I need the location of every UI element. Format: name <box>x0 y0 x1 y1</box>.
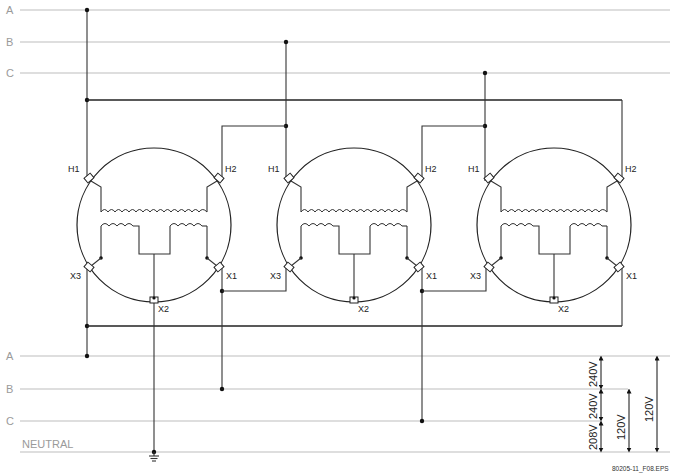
transformer-t1: H1 H2 X3 X1 X2 <box>68 148 237 314</box>
label-h1: H1 <box>68 164 80 174</box>
label-x3: X3 <box>270 271 281 281</box>
voltage-b-n: 120V <box>615 414 627 440</box>
primary-wiring <box>85 8 622 181</box>
label-h2: H2 <box>625 164 637 174</box>
primary-label-a: A <box>6 4 14 16</box>
label-h1: H1 <box>468 164 480 174</box>
primary-label-c: C <box>6 67 14 79</box>
file-label: 80205-11_F08.EPS <box>612 465 669 473</box>
label-x2: X2 <box>158 304 169 314</box>
label-x3: X3 <box>70 271 81 281</box>
secondary-label-a: A <box>6 350 14 362</box>
label-x2: X2 <box>558 304 569 314</box>
secondary-lines: A B C NEUTRAL <box>6 350 670 452</box>
label-h2: H2 <box>225 164 237 174</box>
ground-icon <box>149 452 159 461</box>
wiring-diagram: A B C A B C NEUTRAL <box>0 0 675 476</box>
transformer-t3: H1 H2 X3 X1 X2 <box>468 148 637 314</box>
label-x1: X1 <box>226 271 237 281</box>
label-h2: H2 <box>425 164 437 174</box>
primary-label-b: B <box>6 36 13 48</box>
secondary-label-neutral: NEUTRAL <box>22 438 73 450</box>
label-h1: H1 <box>268 164 280 174</box>
secondary-wiring <box>85 266 622 461</box>
voltage-b-c: 240V <box>587 393 599 419</box>
voltage-indicators: 240V 240V 208V 120V 120V <box>587 358 657 450</box>
label-x1: X1 <box>626 271 637 281</box>
label-x1: X1 <box>426 271 437 281</box>
primary-lines: A B C <box>6 4 670 79</box>
transformer-t2: H1 H2 X3 X1 X2 <box>268 148 437 314</box>
label-x3: X3 <box>470 271 481 281</box>
voltage-a-n: 120V <box>643 396 655 422</box>
secondary-label-b: B <box>6 383 13 395</box>
label-x2: X2 <box>358 304 369 314</box>
voltage-a-b: 240V <box>587 361 599 387</box>
secondary-label-c: C <box>6 415 14 427</box>
voltage-c-n: 208V <box>587 424 599 450</box>
